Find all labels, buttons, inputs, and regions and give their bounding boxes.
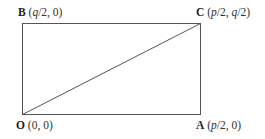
coord-b: (q/2, 0) — [26, 6, 63, 18]
coord-c: (p/2, q/2) — [204, 6, 250, 18]
coord-o: (0, 0) — [25, 119, 53, 131]
point-letter-o: O — [16, 119, 25, 131]
label-point-b: B (q/2, 0) — [18, 7, 62, 19]
label-point-c: C (p/2, q/2) — [196, 7, 250, 19]
coord-text-c: /2) — [237, 6, 250, 18]
label-point-o: O (0, 0) — [16, 120, 53, 132]
coord-text-o: (0, 0) — [25, 119, 53, 131]
coord-a: (p/2, 0) — [204, 119, 241, 131]
label-point-a: A (p/2, 0) — [196, 120, 241, 132]
coord-text-b: /2, 0) — [38, 6, 62, 18]
coord-text-a: /2, 0) — [217, 119, 241, 131]
point-letter-b: B — [18, 6, 26, 18]
diagonal-oc — [23, 24, 201, 115]
coord-text-c: /2, — [217, 6, 232, 18]
